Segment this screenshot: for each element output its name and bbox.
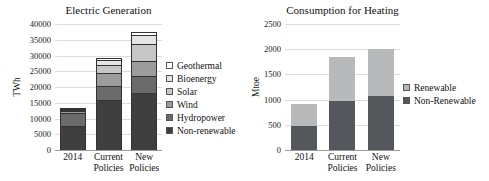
legend-label: Hydropower xyxy=(177,113,225,123)
legend-swatch xyxy=(166,101,173,108)
legend-item-non-renewable: Non-renewable xyxy=(166,124,236,137)
x-axis: 2014Current PoliciesNew Policies xyxy=(285,152,400,174)
legend-label: Renewable xyxy=(414,83,456,93)
legend: GeothermalBioenergySolarWindHydropowerNo… xyxy=(166,59,236,137)
bar-2014 xyxy=(60,108,86,150)
chart-electric-generation: Electric Generation TWh 0500010000150002… xyxy=(0,0,245,181)
chart-title: Consumption for Heating xyxy=(285,4,400,16)
bar-current-policies xyxy=(329,57,355,150)
legend-label: Non-renewable xyxy=(177,126,236,136)
y-tick-label: 2500 xyxy=(245,19,281,29)
legend-item-bioenergy: Bioenergy xyxy=(166,72,236,85)
x-tick-label: Current Policies xyxy=(323,152,361,174)
legend-label: Geothermal xyxy=(177,61,222,71)
bar-new-policies xyxy=(131,32,157,150)
bar-current-policies xyxy=(96,58,122,150)
segment-non-renewable xyxy=(132,93,156,150)
legend-label: Bioenergy xyxy=(177,74,216,84)
legend-swatch xyxy=(166,75,173,82)
x-axis: 2014Current PoliciesNew Policies xyxy=(55,152,162,174)
y-tick-label: 1500 xyxy=(245,69,281,79)
legend-item-geothermal: Geothermal xyxy=(166,59,236,72)
legend-swatch xyxy=(403,97,410,104)
x-tick-label: New Policies xyxy=(126,152,162,174)
bar-slot xyxy=(323,57,361,150)
legend-swatch xyxy=(166,88,173,95)
plot-area xyxy=(285,24,400,151)
y-tick-label: 5000 xyxy=(0,129,51,139)
x-tick-text: 2014 xyxy=(63,152,82,174)
segment-non-renewable xyxy=(329,101,355,150)
x-tick-label: 2014 xyxy=(55,152,91,174)
bars xyxy=(55,24,162,150)
bar-slot xyxy=(91,58,127,150)
segment-solar xyxy=(132,44,156,61)
y-tick-label: 2000 xyxy=(245,44,281,54)
x-tick-text: New Policies xyxy=(126,152,162,174)
segment-renewable xyxy=(329,57,355,101)
segment-non-renewable xyxy=(97,100,121,150)
segment-non-renewable xyxy=(291,126,317,150)
y-tick-label: 1000 xyxy=(245,95,281,105)
chart-title: Electric Generation xyxy=(55,4,162,16)
bar-slot xyxy=(126,32,162,150)
x-tick-label: New Policies xyxy=(362,152,400,174)
legend-label: Wind xyxy=(177,100,198,110)
legend-item-hydropower: Hydropower xyxy=(166,111,236,124)
legend-swatch xyxy=(166,114,173,121)
y-tick-label: 0 xyxy=(245,145,281,155)
segment-renewable xyxy=(291,104,317,126)
bar-new-policies xyxy=(368,49,394,150)
bar-slot xyxy=(55,108,91,150)
chart-consumption-for-heating: Consumption for Heating Mtoe 05001000150… xyxy=(245,0,489,181)
segment-non-renewable xyxy=(61,126,85,150)
segment-hydropower xyxy=(97,86,121,100)
x-tick-text: New Policies xyxy=(362,152,400,174)
segment-hydropower xyxy=(61,113,85,126)
bar-2014 xyxy=(291,104,317,150)
segment-wind xyxy=(97,73,121,86)
bar-slot xyxy=(285,104,323,150)
x-tick-text: Current Policies xyxy=(91,152,127,174)
legend-swatch xyxy=(166,62,173,69)
segment-renewable xyxy=(368,49,394,96)
y-axis: 0500010000150002000025000300003500040000 xyxy=(0,24,51,150)
x-tick-label: 2014 xyxy=(285,152,323,174)
bars xyxy=(285,24,400,150)
x-tick-label: Current Policies xyxy=(91,152,127,174)
legend-item-solar: Solar xyxy=(166,85,236,98)
y-tick-label: 500 xyxy=(245,120,281,130)
segment-hydropower xyxy=(132,76,156,93)
figure: Electric Generation TWh 0500010000150002… xyxy=(0,0,489,181)
legend-item-wind: Wind xyxy=(166,98,236,111)
y-axis: 05001000150020002500 xyxy=(245,24,281,150)
segment-wind xyxy=(132,61,156,76)
x-tick-text: 2014 xyxy=(295,152,314,174)
segment-solar xyxy=(97,65,121,73)
legend-item-renewable: Renewable xyxy=(403,81,476,94)
legend: RenewableNon-Renewable xyxy=(403,81,476,107)
y-tick-label: 10000 xyxy=(0,114,51,124)
legend-label: Solar xyxy=(177,87,197,97)
segment-bioenergy xyxy=(132,35,156,44)
segment-non-renewable xyxy=(368,96,394,150)
y-tick-label: 40000 xyxy=(0,19,51,29)
legend-swatch xyxy=(166,127,173,134)
y-tick-label: 15000 xyxy=(0,98,51,108)
y-tick-label: 20000 xyxy=(0,82,51,92)
legend-swatch xyxy=(403,84,410,91)
y-tick-label: 35000 xyxy=(0,35,51,45)
legend-item-non-renewable: Non-Renewable xyxy=(403,94,476,107)
y-tick-label: 30000 xyxy=(0,51,51,61)
y-tick-label: 25000 xyxy=(0,66,51,76)
plot-area xyxy=(55,24,162,151)
legend-label: Non-Renewable xyxy=(414,96,476,106)
x-tick-text: Current Policies xyxy=(323,152,361,174)
y-tick-label: 0 xyxy=(0,145,51,155)
bar-slot xyxy=(362,49,400,150)
